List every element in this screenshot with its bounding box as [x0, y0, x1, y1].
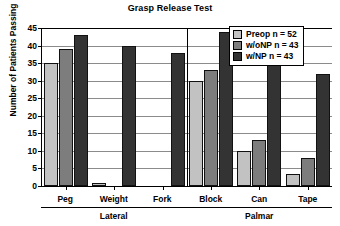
- y-axis-tick-label: 10: [28, 146, 37, 156]
- chart-title: Grasp Release Test: [0, 3, 340, 13]
- x-axis-tick: [308, 186, 309, 190]
- y-axis-tick-label: 30: [28, 76, 37, 86]
- group-divider-line: [187, 28, 188, 186]
- x-axis-label-block: Block: [187, 194, 236, 204]
- bar-weight-series2: [122, 46, 136, 186]
- bracket-line: [41, 207, 187, 208]
- x-axis-label-tape: Tape: [284, 194, 333, 204]
- y-axis-tick-label: 45: [28, 23, 37, 33]
- legend-item-wonp: w/oNP n = 43: [233, 40, 299, 51]
- group-label-lateral: Lateral: [41, 211, 187, 221]
- bar-tape-series0: [286, 174, 300, 186]
- bar-can-series1: [252, 140, 266, 186]
- group-bracket-palmar: Palmar: [187, 207, 333, 221]
- y-axis-title: Number of Patients Passing: [8, 0, 18, 125]
- bar-tape-series1: [301, 158, 315, 186]
- x-axis-tick: [163, 186, 164, 190]
- y-axis-tick-label: 15: [28, 128, 37, 138]
- legend-swatch-wnp-icon: [233, 52, 242, 61]
- bar-fork-series2: [171, 53, 185, 186]
- bar-peg-series1: [59, 49, 73, 186]
- group-bracket-lateral: Lateral: [41, 207, 187, 221]
- chart-legend: Preop n = 52 w/oNP n = 43 w/NP n = 43: [229, 26, 304, 66]
- x-axis-label-can: Can: [235, 194, 284, 204]
- x-axis-category-labels: PegWeightForkBlockCanTape: [41, 194, 332, 204]
- bar-tape-series2: [316, 74, 330, 186]
- y-axis-tick-label: 35: [28, 58, 37, 68]
- bar-peg-series0: [44, 63, 58, 186]
- bar-group-peg: [42, 28, 90, 186]
- y-axis-tick-label: 40: [28, 41, 37, 51]
- bar-can-series0: [237, 151, 251, 186]
- bracket-line: [187, 207, 333, 208]
- x-axis-label-peg: Peg: [41, 194, 90, 204]
- x-axis-tick: [211, 186, 212, 190]
- grasp-release-test-chart: Grasp Release Test Number of Patients Pa…: [0, 0, 340, 226]
- x-axis-tick: [114, 186, 115, 190]
- legend-label-wnp: w/NP n = 43: [246, 51, 293, 62]
- y-axis-tick-label: 5: [32, 163, 37, 173]
- legend-label-preop: Preop n = 52: [246, 29, 297, 40]
- y-axis-tick-label: 0: [32, 181, 37, 191]
- y-axis-tick: [38, 186, 42, 187]
- y-axis-tick-label: 20: [28, 111, 37, 121]
- bar-group-fork: [139, 28, 187, 186]
- bar-peg-series2: [74, 35, 88, 186]
- x-axis-label-fork: Fork: [138, 194, 187, 204]
- legend-item-preop: Preop n = 52: [233, 29, 299, 40]
- x-axis-label-weight: Weight: [90, 194, 139, 204]
- bar-weight-series0: [92, 183, 106, 187]
- bar-block-series0: [189, 81, 203, 186]
- x-axis-tick: [66, 186, 67, 190]
- legend-label-wonp: w/oNP n = 43: [246, 40, 299, 51]
- y-axis-tick-label: 25: [28, 93, 37, 103]
- legend-item-wnp: w/NP n = 43: [233, 51, 299, 62]
- group-brackets: LateralPalmar: [41, 207, 332, 226]
- x-axis-tick: [259, 186, 260, 190]
- legend-swatch-preop-icon: [233, 30, 242, 39]
- bar-can-series2: [267, 63, 281, 186]
- bar-group-weight: [90, 28, 138, 186]
- legend-swatch-wonp-icon: [233, 41, 242, 50]
- bar-block-series1: [204, 70, 218, 186]
- group-label-palmar: Palmar: [187, 211, 333, 221]
